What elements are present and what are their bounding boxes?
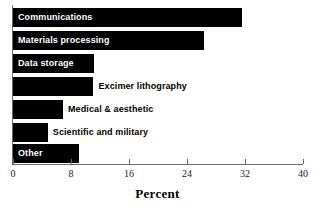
x-axis-title: Percent (0, 186, 315, 202)
x-axis-tick-label: 16 (124, 168, 134, 179)
x-axis-tick-mark (303, 159, 304, 164)
bar-row: Communications (13, 8, 92, 27)
x-axis-tick-mark (71, 159, 72, 164)
bar-label: Scientific and military (53, 123, 148, 142)
bar-label: Materials processing (18, 31, 110, 50)
x-axis-tick-label: 8 (69, 168, 74, 179)
plot-area: Communications Materials processing Data… (0, 0, 315, 165)
bar-row: Materials processing (13, 31, 110, 50)
x-axis-tick-label: 0 (11, 168, 16, 179)
x-axis-tick-label: 32 (240, 168, 250, 179)
bar-row: Scientific and military (13, 123, 148, 142)
value-axis-line (12, 164, 303, 165)
bar-row: Other (13, 144, 43, 163)
bar-row: Medical & aesthetic (13, 100, 153, 119)
x-axis-tick-mark (187, 159, 188, 164)
bar-chart: Communications Materials processing Data… (0, 0, 315, 211)
x-axis-tick-mark (245, 159, 246, 164)
x-axis-tick-label: 40 (298, 168, 308, 179)
bar-row: Data storage (13, 54, 74, 73)
x-axis-tick-mark (129, 159, 130, 164)
x-axis-tick-mark (13, 159, 14, 164)
bar-label: Excimer lithography (98, 77, 186, 96)
bar (13, 123, 48, 142)
x-axis-tick-label: 24 (182, 168, 192, 179)
bar-label: Other (18, 144, 43, 163)
bar-label: Communications (18, 8, 92, 27)
bar-label: Data storage (18, 54, 74, 73)
bar (13, 100, 63, 119)
bar-label: Medical & aesthetic (68, 100, 153, 119)
bar (13, 77, 93, 96)
bar-row: Excimer lithography (13, 77, 187, 96)
